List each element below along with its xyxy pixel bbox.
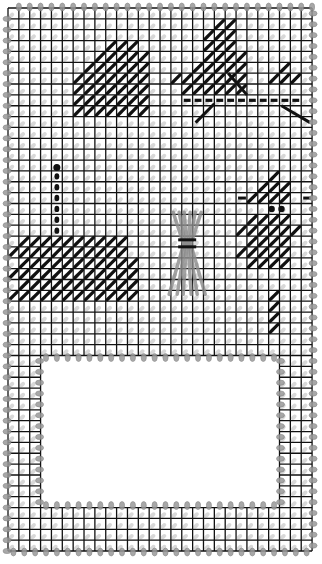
overcast-stitch bbox=[163, 548, 168, 556]
background-stitch bbox=[279, 12, 286, 19]
background-stitch bbox=[203, 120, 210, 127]
background-stitch bbox=[192, 109, 199, 116]
owl-stitch bbox=[259, 238, 267, 246]
background-stitch bbox=[182, 23, 189, 30]
background-stitch bbox=[29, 316, 36, 323]
background-stitch bbox=[290, 348, 297, 355]
overcast-stitch bbox=[309, 206, 317, 211]
background-stitch bbox=[160, 33, 167, 40]
base-stitch bbox=[96, 292, 104, 300]
background-stitch bbox=[301, 272, 308, 279]
background-stitch bbox=[19, 414, 26, 421]
overcast-stitch bbox=[71, 3, 76, 11]
background-stitch bbox=[160, 522, 167, 529]
background-stitch bbox=[29, 511, 36, 518]
ghost-stitch bbox=[75, 75, 83, 83]
base-stitch bbox=[118, 248, 126, 256]
background-stitch bbox=[192, 533, 199, 540]
background-stitch bbox=[301, 403, 308, 410]
background-stitch bbox=[160, 305, 167, 312]
overcast-stitch bbox=[293, 548, 298, 556]
background-stitch bbox=[19, 392, 26, 399]
background-stitch bbox=[138, 23, 145, 30]
background-stitch bbox=[73, 229, 80, 236]
base-stitch bbox=[96, 270, 104, 278]
overcast-stitch bbox=[277, 424, 285, 429]
background-stitch bbox=[290, 164, 297, 171]
ghost-stitch bbox=[96, 107, 104, 115]
background-stitch bbox=[279, 153, 286, 160]
background-stitch bbox=[95, 23, 102, 30]
background-stitch bbox=[116, 12, 123, 19]
owl-stitch bbox=[259, 194, 267, 202]
owl-eye bbox=[278, 206, 284, 212]
background-stitch bbox=[290, 240, 297, 247]
base-stitch bbox=[31, 238, 39, 246]
background-stitch bbox=[138, 262, 145, 269]
background-stitch bbox=[290, 359, 297, 366]
background-stitch bbox=[301, 305, 308, 312]
background-stitch bbox=[214, 109, 221, 116]
background-stitch bbox=[236, 12, 243, 19]
base-stitch bbox=[75, 281, 83, 289]
overcast-stitch bbox=[266, 3, 271, 11]
overcast-stitch bbox=[87, 502, 92, 510]
background-stitch bbox=[214, 12, 221, 19]
background-stitch bbox=[138, 240, 145, 247]
background-stitch bbox=[192, 12, 199, 19]
background-stitch bbox=[73, 153, 80, 160]
background-stitch bbox=[40, 120, 47, 127]
background-stitch bbox=[160, 142, 167, 149]
background-stitch bbox=[203, 240, 210, 247]
background-stitch bbox=[40, 196, 47, 203]
background-stitch bbox=[127, 23, 134, 30]
background-stitch bbox=[149, 153, 156, 160]
overcast-stitch bbox=[36, 369, 44, 374]
background-stitch bbox=[29, 109, 36, 116]
background-stitch bbox=[40, 327, 47, 334]
background-stitch bbox=[40, 153, 47, 160]
overcast-stitch bbox=[3, 49, 11, 54]
overcast-stitch bbox=[228, 548, 233, 556]
background-stitch bbox=[290, 533, 297, 540]
overcast-stitch bbox=[36, 445, 44, 450]
background-stitch bbox=[301, 338, 308, 345]
background-stitch bbox=[268, 23, 275, 30]
background-stitch bbox=[290, 218, 297, 225]
background-stitch bbox=[95, 120, 102, 127]
background-stitch bbox=[182, 44, 189, 51]
background-stitch bbox=[290, 175, 297, 182]
overcast-stitch bbox=[309, 456, 317, 461]
background-stitch bbox=[40, 316, 47, 323]
background-stitch bbox=[247, 186, 254, 193]
background-stitch bbox=[247, 175, 254, 182]
background-stitch bbox=[149, 44, 156, 51]
owl-stitch bbox=[259, 227, 267, 235]
background-stitch bbox=[290, 338, 297, 345]
base-stitch bbox=[107, 248, 115, 256]
background-stitch bbox=[19, 196, 26, 203]
owl-stitch bbox=[281, 248, 289, 256]
background-stitch bbox=[203, 12, 210, 19]
owl-stitch bbox=[248, 194, 256, 202]
base-stitch bbox=[86, 238, 94, 246]
background-stitch bbox=[84, 229, 91, 236]
background-stitch bbox=[84, 207, 91, 214]
overcast-stitch bbox=[3, 27, 11, 32]
ghost-stitch bbox=[129, 64, 137, 72]
background-stitch bbox=[258, 77, 265, 84]
background-stitch bbox=[182, 33, 189, 40]
background-stitch bbox=[95, 533, 102, 540]
background-stitch bbox=[160, 251, 167, 258]
owl-stitch bbox=[248, 248, 256, 256]
background-stitch bbox=[149, 77, 156, 84]
background-stitch bbox=[19, 175, 26, 182]
background-stitch bbox=[203, 23, 210, 30]
background-stitch bbox=[138, 283, 145, 290]
background-stitch bbox=[279, 120, 286, 127]
background-stitch bbox=[84, 120, 91, 127]
background-stitch bbox=[279, 164, 286, 171]
background-stitch bbox=[279, 175, 286, 182]
background-stitch bbox=[19, 500, 26, 507]
background-stitch bbox=[171, 44, 178, 51]
